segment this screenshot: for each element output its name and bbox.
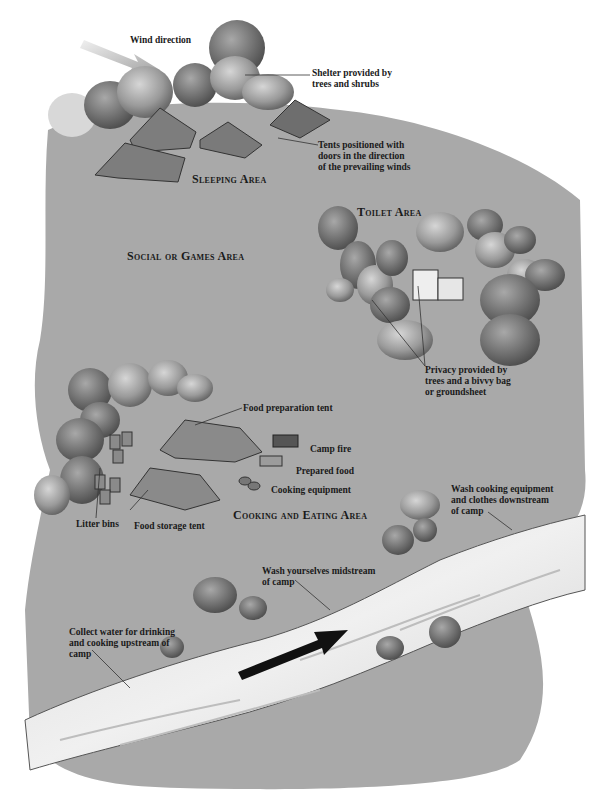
shelter-label: Shelter provided by trees and shrubs (312, 68, 392, 90)
cooking-area-heading: Cooking and Eating Area (233, 508, 367, 523)
prepared-food-label: Prepared food (296, 466, 354, 477)
privacy-label: Privacy provided by trees and a bivvy ba… (425, 365, 511, 398)
social-area-heading: Social or Games Area (127, 249, 244, 264)
sleeping-area-heading: Sleeping Area (192, 172, 266, 187)
tents-positioned-label: Tents positioned with doors in the direc… (318, 140, 410, 173)
camp-fire-label: Camp fire (310, 444, 351, 455)
wash-cooking-label: Wash cooking equipment and clothes downs… (451, 484, 553, 517)
food-storage-tent-label: Food storage tent (134, 521, 205, 532)
prepared-food-box (260, 456, 282, 466)
wash-yourselves-label: Wash yourselves midstream of camp (262, 566, 375, 588)
cooking-equipment-label: Cooking equipment (271, 485, 351, 496)
collect-water-label: Collect water for drinking and cooking u… (69, 627, 175, 660)
camp-fire (273, 435, 298, 447)
food-preparation-tent-label: Food preparation tent (243, 403, 333, 414)
litter-bins-label: Litter bins (76, 519, 119, 530)
wind-direction-label: Wind direction (130, 35, 191, 46)
toilet-area-heading: Toilet Area (357, 205, 422, 220)
